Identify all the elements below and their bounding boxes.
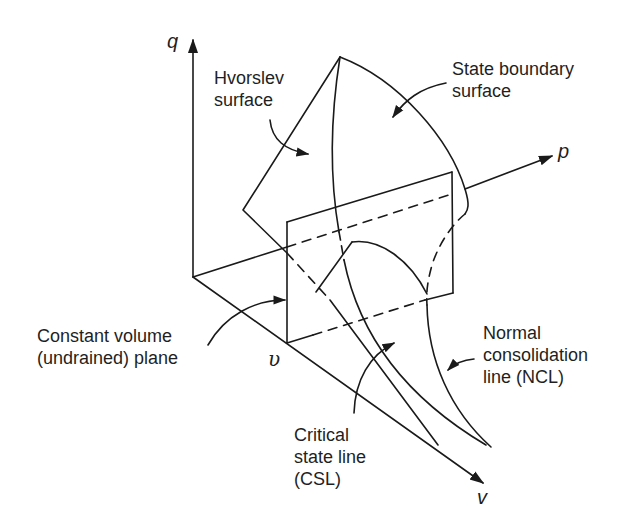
p-axis-behind (193, 247, 287, 277)
csl-label-line2: state line (294, 446, 366, 468)
ncl-pointer (448, 359, 474, 370)
ncl-label-line1: Normal (483, 322, 588, 344)
q-axis-label: q (167, 30, 178, 53)
plane-bottom-front (287, 335, 313, 343)
ncl-curve (427, 305, 491, 447)
state-boundary-label-line1: State boundary (452, 58, 574, 80)
plane-top-edge (287, 172, 452, 222)
state-boundary-label-line2: surface (452, 80, 574, 102)
ncl-label-line2: consolidation (483, 344, 588, 366)
hvorslev-label-line1: Hvorslev (214, 67, 284, 89)
p-axis-hidden (287, 194, 452, 247)
v-axis-label: v (477, 486, 487, 509)
state-boundary-label: State boundary surface (452, 58, 574, 102)
undrained-path-arc (352, 242, 427, 294)
hvorslev-label-line2: surface (214, 89, 284, 111)
ncl-label-line3: line (NCL) (483, 366, 588, 388)
constant-volume-label: Constant volume (undrained) plane (37, 325, 178, 369)
ncl-label: Normal consolidation line (NCL) (483, 322, 588, 388)
constant-volume-label-line1: Constant volume (37, 325, 178, 347)
state-boundary-pointer (393, 83, 446, 117)
plane-bottom-right (425, 293, 453, 300)
ncl-hidden-dashed (427, 214, 465, 305)
hvorslev-lower-hidden (287, 253, 330, 300)
constant-volume-label-line2: (undrained) plane (37, 347, 178, 369)
p-axis-front (465, 156, 552, 189)
csl-label-line3: (CSL) (294, 468, 366, 490)
hvorslev-label: Hvorslev surface (214, 67, 284, 111)
csl-label-line1: Critical (294, 424, 366, 446)
state-boundary-curve (340, 57, 468, 214)
csl-label: Critical state line (CSL) (294, 424, 366, 490)
p-axis-label: p (558, 140, 569, 163)
plane-v-label: υ (268, 347, 280, 371)
constant-volume-pointer (208, 300, 285, 345)
plane-right-edge (452, 172, 453, 293)
undrained-path-left (316, 242, 352, 292)
